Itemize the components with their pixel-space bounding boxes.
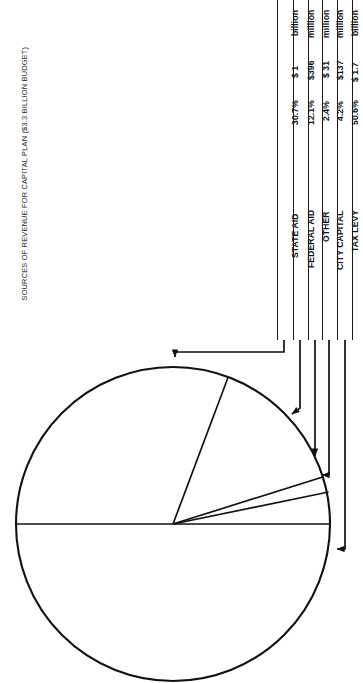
- column-divider: [322, 0, 323, 340]
- label-table: STATE AID 30.7% $ 1 billion FEDERAL AID …: [0, 0, 363, 363]
- column-divider: [293, 0, 294, 340]
- column-divider: [352, 0, 353, 340]
- slice-edge-state-aid: [173, 377, 228, 524]
- column-divider: [308, 0, 309, 340]
- label-column-edge: [352, 0, 363, 340]
- label-column-state-aid: STATE AID 30.7% $ 1 billion: [277, 0, 294, 340]
- figure-canvas: SOURCES OF REVENUE FOR CAPITAL PLAN ($3.…: [0, 0, 363, 683]
- slice-edge-federal-aid: [173, 477, 323, 524]
- leader-tax-levy: [337, 340, 345, 549]
- column-divider: [277, 0, 278, 340]
- column-divider: [337, 0, 338, 340]
- slice-edge-other: [173, 492, 329, 524]
